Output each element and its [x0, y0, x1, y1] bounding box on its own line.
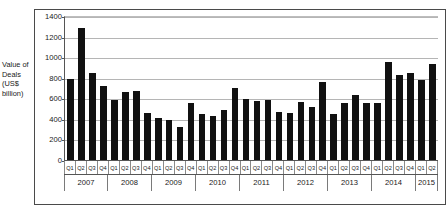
y-axis-tick-label: 1200 [45, 34, 62, 42]
bar [78, 28, 85, 161]
bar-slot [131, 17, 142, 161]
x-axis-quarter-label: Q2 [295, 161, 306, 174]
y-axis-caption-line-3: (US$ [2, 79, 50, 89]
y-axis-caption-line-1: Value of [2, 60, 50, 70]
bar [265, 100, 272, 161]
bar [67, 79, 74, 161]
bar-slot [339, 17, 350, 161]
x-axis-quarter-label: Q4 [98, 161, 109, 174]
bar-slot [197, 17, 208, 161]
x-axis-quarter-label: Q3 [219, 161, 230, 174]
bar [429, 64, 436, 161]
bar-slot [427, 17, 438, 161]
bar-slot [262, 17, 273, 161]
x-axis-quarter-label: Q1 [416, 161, 427, 174]
x-axis-quarter-label: Q2 [76, 161, 87, 174]
y-axis-tick-label: 800 [49, 75, 62, 83]
x-axis-quarter-label: Q3 [306, 161, 317, 174]
x-axis-quarter-label: Q2 [208, 161, 219, 174]
bar [309, 107, 316, 162]
bar-slot [405, 17, 416, 161]
bar [177, 127, 184, 161]
bar [122, 92, 129, 161]
bar-slot [230, 17, 241, 161]
y-axis-caption-line-2: Deals [2, 70, 50, 80]
y-axis-tick-label: 600 [49, 95, 62, 103]
figure-title-cutoff [60, 0, 360, 7]
bar [188, 103, 195, 161]
x-axis-quarter-label: Q3 [394, 161, 405, 174]
bar-slot [361, 17, 372, 161]
bar-slot [306, 17, 317, 161]
y-axis-tick-label: 0 [58, 157, 62, 165]
bar-slot [416, 17, 427, 161]
x-axis-quarter-label: Q2 [251, 161, 262, 174]
bar [330, 114, 337, 161]
bar [199, 114, 206, 161]
bar [111, 100, 118, 161]
x-axis-quarter-label: Q4 [361, 161, 372, 174]
bar-slot [219, 17, 230, 161]
bar-slot [109, 17, 120, 161]
x-axis-year-label: 2011 [240, 175, 284, 191]
x-axis-quarter-label: Q1 [64, 161, 76, 174]
year-label-band: 200720082009201020112012201320142015 [64, 175, 438, 191]
bar-slot [186, 17, 197, 161]
bar-slot [251, 17, 262, 161]
x-axis-quarter-label: Q2 [427, 161, 438, 174]
x-axis-quarter-label: Q1 [241, 161, 252, 174]
chart-figure: Value of Deals (US$ billion) 02004006008… [0, 0, 448, 214]
bar [221, 110, 228, 161]
bar [352, 95, 359, 161]
x-axis-quarter-label: Q3 [131, 161, 142, 174]
x-axis-quarter-label: Q3 [175, 161, 186, 174]
bar-slot [175, 17, 186, 161]
x-axis-year-label: 2015 [416, 175, 438, 191]
y-axis-tick-label: 1400 [45, 13, 62, 21]
x-axis-quarter-label: Q1 [197, 161, 208, 174]
bar [144, 113, 151, 161]
x-axis-year-label: 2008 [108, 175, 152, 191]
bar [319, 82, 326, 161]
bar [363, 103, 370, 161]
bar-series [65, 17, 438, 161]
y-axis-caption-line-4: billion) [2, 89, 50, 99]
x-axis-quarter-label: Q1 [328, 161, 339, 174]
bar-slot [328, 17, 339, 161]
bar-slot [153, 17, 164, 161]
x-axis-quarter-label: Q4 [273, 161, 284, 174]
bar-slot [383, 17, 394, 161]
x-axis-quarter-label: Q4 [142, 161, 153, 174]
x-axis-quarter-label: Q1 [153, 161, 164, 174]
x-axis-quarter-label: Q4 [405, 161, 416, 174]
bar-slot [164, 17, 175, 161]
bar [232, 88, 239, 161]
bar [133, 91, 140, 161]
bar-slot [120, 17, 131, 161]
y-axis-tick-label: 200 [49, 137, 62, 145]
bar [276, 112, 283, 161]
x-axis-quarter-label: Q2 [383, 161, 394, 174]
bar-slot [284, 17, 295, 161]
bar [155, 118, 162, 161]
x-axis-year-label: 2007 [64, 175, 108, 191]
bar [243, 99, 250, 161]
x-axis-quarter-label: Q1 [109, 161, 120, 174]
bar-slot [87, 17, 98, 161]
bar-slot [65, 17, 76, 161]
x-axis-year-label: 2010 [196, 175, 240, 191]
bar [407, 73, 414, 161]
x-axis-quarter-label: Q3 [87, 161, 98, 174]
bar-slot [394, 17, 405, 161]
x-axis-year-label: 2009 [152, 175, 196, 191]
bar-slot [295, 17, 306, 161]
x-axis-quarter-label: Q2 [339, 161, 350, 174]
y-axis-tick-label: 1000 [45, 54, 62, 62]
bar-slot [142, 17, 153, 161]
bar-slot [76, 17, 87, 161]
x-axis-quarter-label: Q4 [230, 161, 241, 174]
x-axis-quarter-label: Q3 [350, 161, 361, 174]
bar-slot [241, 17, 252, 161]
y-axis-caption: Value of Deals (US$ billion) [2, 60, 50, 98]
bar-slot [273, 17, 284, 161]
